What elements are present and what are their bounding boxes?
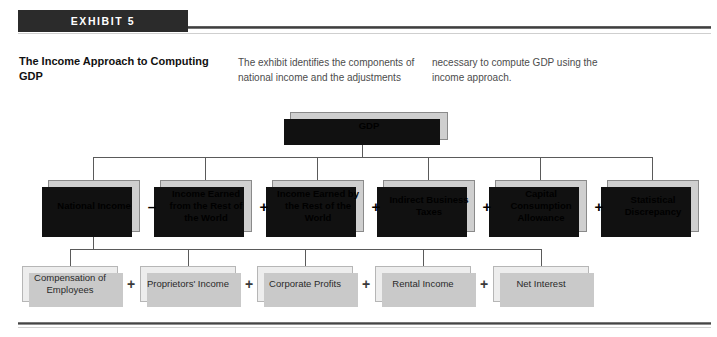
node-proprietors-income: Proprietors' Income <box>140 266 236 302</box>
connector-drop-row2-5 <box>540 157 541 180</box>
node-gdp-label: GDP <box>357 120 382 132</box>
connector-drop-row2-4 <box>428 157 429 180</box>
footer-rule <box>18 322 711 325</box>
node-net-interest: Net Interest <box>493 266 589 302</box>
node-proprietors-income-label: Proprietors' Income <box>145 278 231 290</box>
node-capital-consumption-allowance: Capital Consumption Allowance <box>495 180 587 232</box>
node-corporate-profits-label: Corporate Profits <box>267 278 343 290</box>
connector-drop-row3-5 <box>541 249 542 266</box>
operator-row3-2: + <box>242 277 256 291</box>
node-gdp: GDP <box>290 112 448 140</box>
node-compensation-of-employees: Compensation of Employees <box>22 266 118 302</box>
footer-rule-hairline <box>18 327 711 328</box>
connector-drop-row2-2 <box>205 157 206 180</box>
node-statistical-discrepancy: Statistical Discrepancy <box>607 180 699 232</box>
connector-drop-row2-6 <box>652 157 653 180</box>
connector-drop-row3-1 <box>70 249 71 266</box>
node-net-interest-label: Net Interest <box>514 278 567 290</box>
operator-row2-2: + <box>257 199 271 213</box>
operator-row3-1: + <box>124 277 138 291</box>
operator-row2-5: + <box>592 199 606 213</box>
node-statistical-discrepancy-label: Statistical Discrepancy <box>608 194 698 218</box>
node-national-income: National Income <box>48 180 140 232</box>
connector-row2-bus <box>93 157 652 158</box>
operator-row3-4: + <box>477 277 491 291</box>
connector-drop-row3-4 <box>423 249 424 266</box>
connector-drop-row2-3 <box>317 157 318 180</box>
node-rental-income-label: Rental Income <box>390 278 455 290</box>
node-national-income-label: National Income <box>55 200 132 212</box>
node-indirect-business-taxes-label: Indirect Business Taxes <box>384 194 474 218</box>
node-income-earned-by-row-label: Income Earned by the Rest of the World <box>273 188 363 224</box>
operator-row2-4: + <box>480 199 494 213</box>
operator-row2-3: + <box>369 199 383 213</box>
income-approach-flowchart: GDP National Income – Income Earned from… <box>0 0 717 337</box>
node-income-earned-by-row: Income Earned by the Rest of the World <box>272 180 364 232</box>
connector-drop-row3-2 <box>188 249 189 266</box>
operator-row3-3: + <box>359 277 373 291</box>
operator-row2-1: – <box>145 199 159 213</box>
node-income-earned-from-row: Income Earned from the Rest of the World <box>160 180 252 232</box>
connector-drop-row2-1 <box>93 157 94 180</box>
node-corporate-profits: Corporate Profits <box>257 266 353 302</box>
node-capital-consumption-allowance-label: Capital Consumption Allowance <box>496 188 586 224</box>
node-indirect-business-taxes: Indirect Business Taxes <box>383 180 475 232</box>
connector-drop-row3-3 <box>305 249 306 266</box>
node-rental-income: Rental Income <box>375 266 471 302</box>
node-compensation-of-employees-label: Compensation of Employees <box>23 272 117 296</box>
node-income-earned-from-row-label: Income Earned from the Rest of the World <box>161 188 251 224</box>
